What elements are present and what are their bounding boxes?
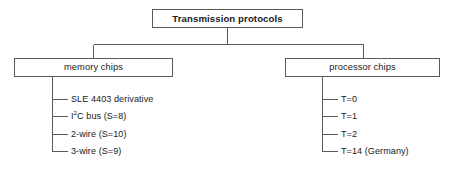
leaf-i2c-bus: I2C bus (S=8) xyxy=(71,112,126,121)
leaf-t-0: T=0 xyxy=(341,95,357,104)
node-memory-chips-label: memory chips xyxy=(64,63,123,72)
leaf-2-wire: 2-wire (S=10) xyxy=(71,130,126,139)
leaf-t-14-germany: T=14 (Germany) xyxy=(341,147,409,156)
transmission-protocols-tree-diagram: Transmission protocols memory chips proc… xyxy=(0,0,454,170)
leaf-t-2: T=2 xyxy=(341,130,357,139)
node-memory-chips: memory chips xyxy=(14,58,173,77)
node-processor-chips: processor chips xyxy=(285,58,440,77)
root-node-label: Transmission protocols xyxy=(172,14,282,24)
leaf-t-1: T=1 xyxy=(341,112,357,121)
root-node-transmission-protocols: Transmission protocols xyxy=(152,9,303,28)
leaf-i2c-bus-suffix: C bus (S=8) xyxy=(77,111,126,121)
node-processor-chips-label: processor chips xyxy=(329,63,396,72)
leaf-3-wire: 3-wire (S=9) xyxy=(71,147,121,156)
leaf-sle-4403-derivative: SLE 4403 derivative xyxy=(71,95,153,104)
